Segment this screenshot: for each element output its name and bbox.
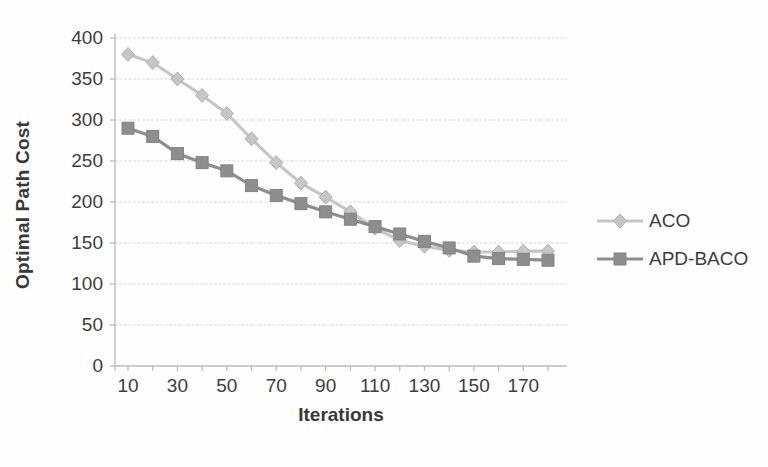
diamond-marker-icon (596, 211, 644, 231)
series-marker-apd-baco (122, 122, 134, 134)
series-marker-apd-baco (542, 254, 554, 266)
series-marker-apd-baco (344, 213, 356, 225)
x-tick-label: 70 (266, 375, 287, 396)
x-axis-title: Iterations (115, 404, 567, 426)
series-marker-aco (319, 190, 332, 204)
legend-item-apd-baco: APD-BACO (596, 246, 748, 272)
series-marker-apd-baco (418, 235, 430, 247)
x-tick-label: 90 (315, 375, 336, 396)
series-line-aco (128, 54, 548, 252)
x-tick-label: 50 (216, 375, 237, 396)
series-marker-aco (122, 47, 135, 61)
series-line-apd-baco (128, 128, 548, 260)
y-tick-label: 250 (71, 150, 103, 171)
series-marker-apd-baco (246, 180, 258, 192)
square-marker-icon (596, 249, 644, 269)
y-tick-label: 50 (82, 314, 103, 335)
y-tick-label: 100 (71, 273, 103, 294)
y-tick-label: 200 (71, 191, 103, 212)
series-marker-apd-baco (147, 130, 159, 142)
series-marker-apd-baco (517, 253, 529, 265)
y-tick-label: 150 (71, 232, 103, 253)
series-marker-apd-baco (221, 165, 233, 177)
x-tick-label: 10 (117, 375, 138, 396)
y-axis-title: Optimal Path Cost (12, 55, 46, 355)
y-tick-label: 300 (71, 109, 103, 130)
y-tick-label: 350 (71, 68, 103, 89)
series-marker-apd-baco (443, 242, 455, 254)
chart-figure: 0501001502002503003504001030507090110130… (0, 0, 768, 467)
series-marker-apd-baco (295, 198, 307, 210)
series-marker-apd-baco (394, 228, 406, 240)
series-marker-apd-baco (320, 206, 332, 218)
x-tick-label: 110 (360, 375, 390, 396)
x-tick-label: 130 (409, 375, 441, 396)
series-marker-apd-baco (171, 148, 183, 160)
series-marker-apd-baco (468, 250, 480, 262)
legend-label-aco: ACO (649, 210, 690, 232)
series-marker-apd-baco (493, 253, 505, 265)
x-tick-label: 170 (507, 375, 539, 396)
legend: ACO APD-BACO (596, 208, 748, 272)
series-marker-apd-baco (196, 157, 208, 169)
series-marker-apd-baco (369, 221, 381, 233)
x-tick-label: 30 (167, 375, 188, 396)
x-tick-label: 150 (458, 375, 490, 396)
y-tick-label: 0 (92, 355, 103, 376)
legend-item-aco: ACO (596, 208, 748, 234)
y-tick-label: 400 (71, 27, 103, 48)
series-marker-apd-baco (270, 189, 282, 201)
legend-label-apd-baco: APD-BACO (649, 248, 748, 270)
